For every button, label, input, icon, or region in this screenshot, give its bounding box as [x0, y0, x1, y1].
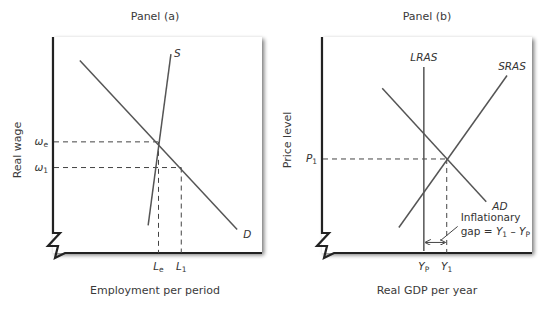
panel-a-x-axis-title: Employment per period	[90, 284, 220, 297]
panel-b: Panel (b) P1Y1YPLRASSRASADInflationaryga…	[281, 10, 532, 297]
curve-label-ad: AD	[491, 200, 507, 212]
chart-canvas: Panel (a) ωeω1LeL1DS Employment per peri…	[0, 0, 543, 309]
curve-label-lras: LRAS	[410, 51, 437, 63]
gap-label-line1: Inflationary	[461, 211, 521, 223]
x-tick-label-l-1: L1	[176, 260, 187, 274]
panel-a-title: Panel (a)	[131, 10, 180, 23]
panel-a: Panel (a) ωeω1LeL1DS Employment per peri…	[11, 10, 262, 297]
curve-label-sras: SRAS	[498, 60, 526, 72]
x-tick-label-y-1: Y1	[441, 260, 452, 274]
gap-label-line2: gap = Y1 – YP	[461, 225, 531, 239]
y-tick-label-w-e: ωe	[35, 135, 49, 149]
curve-label-d: D	[243, 228, 251, 240]
x-tick-label-l-e: Le	[153, 260, 164, 274]
panel-a-y-axis-title: Real wage	[11, 121, 24, 178]
y-tick-label-p-1: P1	[306, 152, 317, 166]
panel-b-title: Panel (b)	[403, 10, 452, 23]
panel-b-x-axis-title: Real GDP per year	[377, 284, 478, 297]
x-tick-label-y-p: YP	[418, 260, 429, 274]
curve-label-s: S	[174, 47, 181, 59]
panel-b-y-axis-title: Price level	[281, 112, 294, 169]
y-tick-label-w-1: ω1	[34, 161, 48, 175]
